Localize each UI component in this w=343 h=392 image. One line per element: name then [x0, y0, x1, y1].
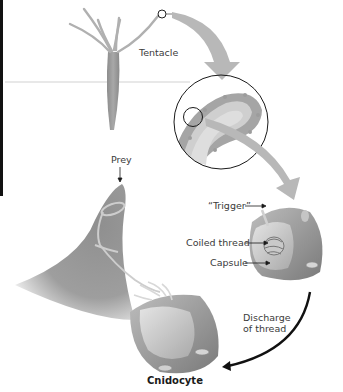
label-discharge: Discharge of thread: [243, 313, 291, 335]
cnidocyte-diagram: Tentacle Prey “Trigger” Coiled thread Ca…: [0, 0, 343, 392]
label-discharge-line2: of thread: [243, 324, 291, 335]
label-leaders: [118, 167, 270, 265]
label-capsule: Capsule: [210, 258, 248, 269]
label-coiled-thread: Coiled thread: [186, 238, 250, 249]
hydra-illustration: [70, 9, 172, 130]
label-tentacle: Tentacle: [139, 48, 178, 59]
cnidocyte-discharged: [130, 282, 219, 373]
diagram-title-cnidocyte: Cnidocyte: [147, 375, 203, 387]
prey-illustration: [15, 184, 160, 320]
cnidocyte-undischarged: [250, 208, 323, 280]
label-prey: Prey: [111, 155, 132, 166]
tentacle-highlight-circle: [158, 10, 166, 18]
zoom-arrow-2: [205, 118, 300, 200]
label-trigger: “Trigger”: [208, 201, 251, 212]
zoom-arrow-1: [172, 12, 240, 80]
